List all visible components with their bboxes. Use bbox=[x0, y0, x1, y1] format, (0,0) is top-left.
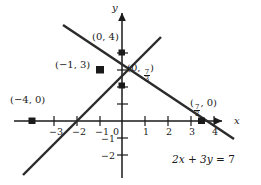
paren-open: ( bbox=[190, 97, 194, 108]
fraction-denominator: 3 bbox=[144, 76, 149, 83]
point-label-7over2-0: (72, 0) bbox=[190, 98, 217, 118]
point-label-0-7over3: (0, 73) bbox=[127, 63, 154, 83]
equation-right-side: 7 bbox=[228, 153, 235, 165]
fraction-7-over-3: 73 bbox=[144, 69, 149, 83]
marker-7over2-0 bbox=[198, 118, 205, 125]
x-tick-label-2: 2 bbox=[166, 127, 172, 137]
point-label-neg1-3: (−1, 3) bbox=[55, 60, 90, 70]
marker-0-4 bbox=[119, 50, 126, 56]
equation-equals-operator: = bbox=[216, 153, 225, 165]
paren-close: ) bbox=[150, 62, 154, 73]
y-tick-label-neg2: −2 bbox=[101, 151, 115, 161]
coordinate-plane-figure: x y −3 −2 −1 0 1 2 3 4 −1 −2 (0, 4) (−1,… bbox=[0, 0, 261, 185]
x-tick-label-1: 1 bbox=[143, 127, 149, 137]
line-rising bbox=[23, 37, 161, 175]
x-tick-label-neg3: −3 bbox=[49, 127, 63, 137]
y-axis-label: y bbox=[112, 3, 118, 13]
equation-annotation: 2x + 3y = 7 bbox=[172, 154, 235, 165]
paren-open: (0, bbox=[127, 62, 144, 73]
y-tick-label-neg1: −1 bbox=[101, 134, 115, 144]
x-axis-label: x bbox=[234, 116, 240, 126]
paren-close: , 0) bbox=[200, 97, 217, 108]
marker-0-7over3 bbox=[119, 83, 126, 89]
marker-neg1-3 bbox=[96, 66, 104, 74]
equation-plus-operator: + bbox=[188, 153, 197, 165]
marker-neg4-0 bbox=[29, 118, 36, 125]
x-tick-label-neg2: −2 bbox=[72, 127, 86, 137]
point-label-0-4: (0, 4) bbox=[92, 32, 119, 42]
x-tick-label-4: 4 bbox=[212, 127, 218, 137]
equation-term-1: 2x bbox=[172, 153, 185, 165]
equation-term-2: 3y bbox=[200, 153, 213, 165]
x-tick-label-3: 3 bbox=[189, 127, 195, 137]
point-label-neg4-0: (−4, 0) bbox=[10, 95, 45, 105]
fraction-denominator: 2 bbox=[194, 111, 199, 118]
